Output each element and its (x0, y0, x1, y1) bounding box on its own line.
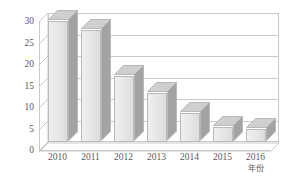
x-axis-title: 年份 (239, 164, 273, 174)
bar-front-face (147, 93, 167, 142)
bar (48, 12, 68, 142)
x-axis-tick-label: 2012 (107, 152, 141, 163)
bar (246, 120, 266, 142)
x-axis-line (39, 150, 270, 151)
bar-front-face (213, 127, 233, 142)
x-axis-tick-label: 2011 (74, 152, 108, 163)
x-axis-tick-label: 2013 (140, 152, 174, 163)
bar (213, 118, 233, 142)
bar (180, 104, 200, 142)
gridline (48, 13, 279, 14)
x-axis-tick-label: 2010 (41, 152, 75, 163)
bar-front-face (81, 30, 101, 142)
bar (81, 21, 101, 142)
y-axis-tick-label: 10 (12, 103, 34, 113)
bar (147, 84, 167, 142)
bar-front-face (114, 76, 134, 142)
y-axis-tick-label: 30 (12, 17, 34, 27)
y-axis-tick-labels: 051015202530 (10, 0, 34, 181)
bar (114, 67, 134, 142)
y-axis-tick-label: 20 (12, 60, 34, 70)
y-axis-tick-label: 5 (12, 125, 34, 135)
plot-area (39, 13, 279, 151)
x-axis-tick-label: 2016 (239, 152, 273, 163)
bar-front-face (48, 21, 68, 142)
y-axis-tick-label: 15 (12, 82, 34, 92)
x-axis-tick-label: 2015 (206, 152, 240, 163)
gridline-depth-connector (39, 142, 49, 152)
y-axis-tick-label: 0 (12, 146, 34, 156)
y-axis-tick-label: 25 (12, 39, 34, 49)
bar-chart: 识别错误率/% 051015202530 2010201120122013201… (0, 0, 284, 181)
bar-front-face (180, 113, 200, 142)
x-axis-tick-label: 2014 (173, 152, 207, 163)
bar-front-face (246, 129, 266, 142)
